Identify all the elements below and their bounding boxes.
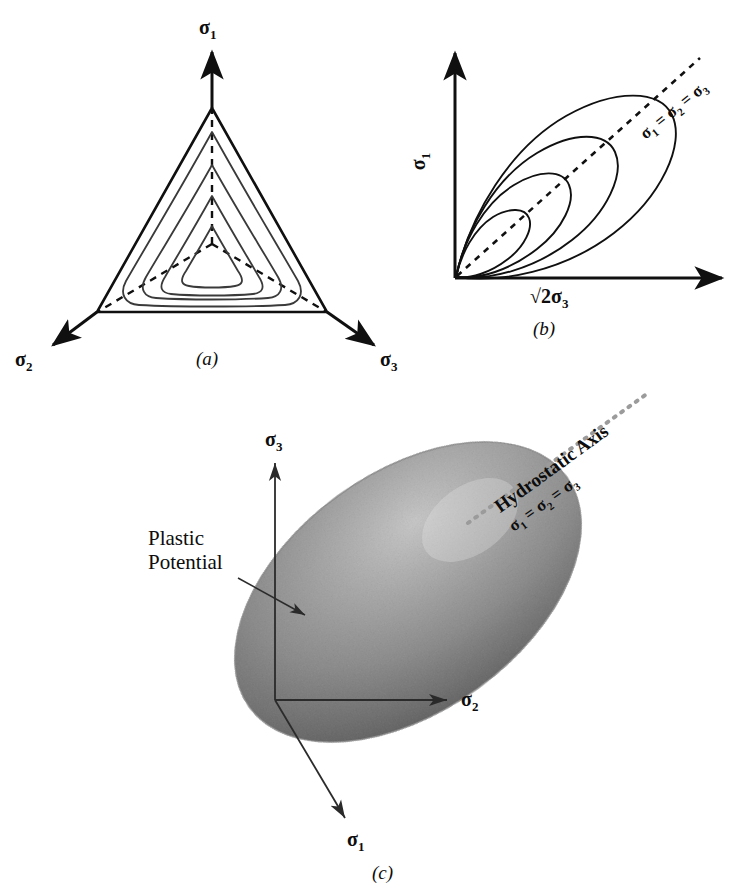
- figure-canvas: [0, 0, 747, 896]
- panel-b-label-sigma1: σ1: [407, 153, 434, 170]
- panel-a-axis-sigma2: [53, 312, 97, 345]
- panel-b: [455, 53, 722, 279]
- panel-a-dashed-radii: [99, 110, 325, 311]
- figure-svg: [0, 0, 747, 896]
- panel-a-label-sigma2: σ2: [15, 348, 32, 375]
- panel-b-label-sqrt2-sigma3: √2σ3: [530, 285, 568, 312]
- panel-a-label-sigma3: σ3: [380, 348, 397, 375]
- panel-a-label-sigma1: σ1: [199, 16, 216, 43]
- panel-c-label-sigma1: σ1: [347, 828, 364, 855]
- panel-a-caption: (a): [196, 348, 218, 370]
- panel-c-label-sigma2: σ2: [461, 688, 478, 715]
- panel-b-hydrostatic-line: [457, 58, 700, 276]
- panel-c-label-sigma3: σ3: [265, 428, 282, 455]
- panel-a-axis-sigma3: [327, 312, 374, 345]
- panel-a-contour-4: [182, 226, 242, 288]
- panel-c-plastic-potential-label: Plastic Potential: [148, 527, 223, 574]
- panel-b-contour-2: [456, 137, 618, 278]
- panel-a-contour-3: [161, 196, 262, 296]
- panel-c-caption: (c): [372, 862, 393, 884]
- panel-b-caption: (b): [533, 318, 555, 340]
- panel-a: [53, 52, 374, 345]
- plastic-potential-line2: Potential: [148, 551, 223, 575]
- plastic-potential-line1: Plastic: [148, 527, 223, 551]
